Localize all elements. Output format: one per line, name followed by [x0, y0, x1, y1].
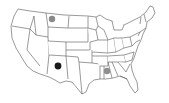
us-map-svg: [0, 0, 169, 103]
marker-new-mexico: [55, 63, 62, 70]
states-outline: [11, 6, 155, 94]
marker-montana: [49, 16, 55, 22]
marker-mississippi: [104, 68, 110, 74]
us-map: [0, 0, 169, 103]
